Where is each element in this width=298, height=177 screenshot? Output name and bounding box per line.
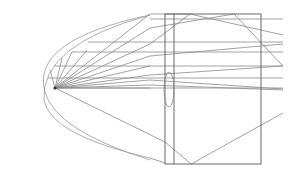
crossing-ray-line — [234, 14, 283, 66]
ray-line — [50, 70, 55, 88]
ray-line — [55, 56, 150, 88]
crossing-ray-line — [191, 113, 283, 164]
crossing-ray-line — [150, 158, 165, 163]
rays-from-focus-group — [50, 14, 150, 88]
crossing-ray-line — [150, 14, 190, 44]
crossing-ray-line — [165, 142, 191, 164]
crossing-ray-line — [55, 88, 165, 142]
crossing-ray-group — [55, 14, 283, 164]
focal-point — [53, 86, 56, 89]
crossing-ray-line — [150, 66, 283, 75]
lens-shape — [164, 72, 174, 107]
crossing-ray-line — [150, 44, 283, 56]
optics-ray-diagram — [0, 0, 298, 177]
